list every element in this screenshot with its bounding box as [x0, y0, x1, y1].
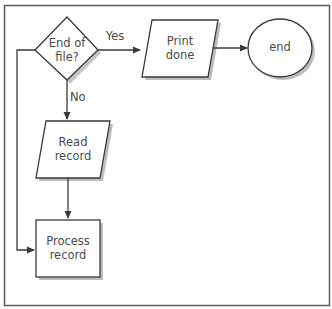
read-record-shape[interactable]: [36, 121, 110, 178]
flowchart-canvas: [0, 0, 332, 309]
process-record-shape[interactable]: [36, 220, 100, 277]
end-terminator[interactable]: [248, 19, 312, 77]
print-done-shape[interactable]: [142, 20, 218, 77]
